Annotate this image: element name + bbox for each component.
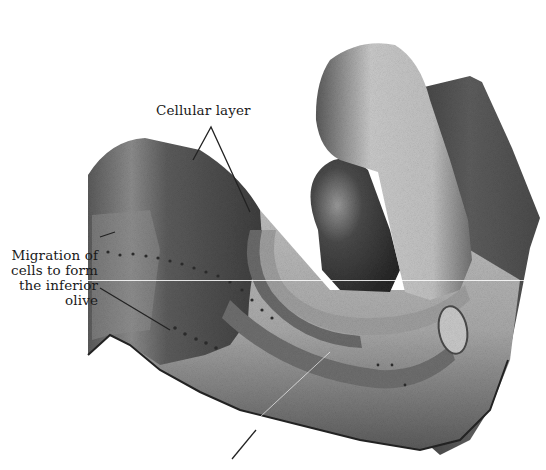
label-migration-line1: Migration of: [0, 248, 98, 263]
label-migration-line2: cells to form: [0, 263, 98, 278]
label-migration-line3: the inferior: [0, 278, 98, 293]
anatomical-illustration: [0, 0, 546, 470]
label-migration-line4: olive: [0, 293, 98, 308]
label-cellular-layer: Cellular layer: [156, 103, 251, 118]
label-migration-inferior-olive: Migration of cells to form the inferior …: [0, 248, 98, 308]
bottom-leader: [232, 430, 256, 459]
